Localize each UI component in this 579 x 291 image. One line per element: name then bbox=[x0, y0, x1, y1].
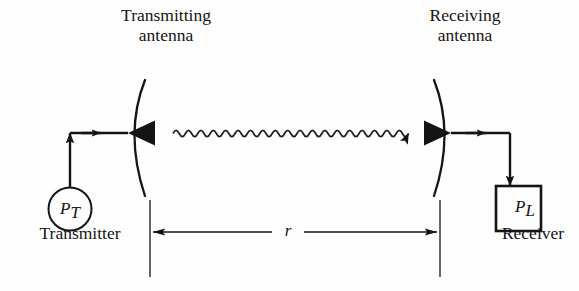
propagating-wave bbox=[173, 130, 409, 136]
transmitter-label: Transmitter bbox=[14, 224, 146, 244]
receiving-antenna-label-line1: Receiving bbox=[392, 6, 538, 26]
transmit-power-symbol: PT bbox=[48, 196, 92, 222]
distance-symbol: r bbox=[275, 220, 301, 242]
load-power-subscript: L bbox=[525, 201, 534, 220]
transmitting-antenna-label: Transmitting antenna bbox=[88, 6, 244, 45]
load-power-symbol: PL bbox=[503, 194, 547, 220]
antenna-link-diagram: Transmitting antenna Receiving antenna T… bbox=[0, 0, 579, 291]
transmitting-antenna-feed-horn bbox=[128, 121, 155, 146]
load-power-base: P bbox=[515, 197, 525, 216]
transmit-power-base: P bbox=[60, 199, 70, 218]
receiving-antenna-label-line2: antenna bbox=[392, 26, 538, 46]
receiver-label: Receiver bbox=[487, 224, 579, 244]
distance-symbol-text: r bbox=[285, 221, 292, 240]
transmit-power-subscript: T bbox=[70, 203, 79, 222]
receiving-antenna-label: Receiving antenna bbox=[392, 6, 538, 45]
transmitting-antenna-label-line1: Transmitting bbox=[88, 6, 244, 26]
receiving-antenna-feed-horn bbox=[424, 121, 451, 146]
transmitting-antenna-label-line2: antenna bbox=[88, 26, 244, 46]
